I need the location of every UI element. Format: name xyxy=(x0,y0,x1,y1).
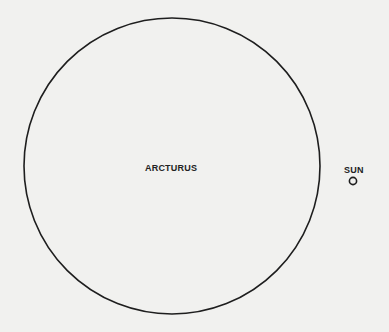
sun-label: SUN xyxy=(344,165,364,175)
sun-circle xyxy=(349,177,356,184)
arcturus-label: ARCTURUS xyxy=(145,163,197,173)
